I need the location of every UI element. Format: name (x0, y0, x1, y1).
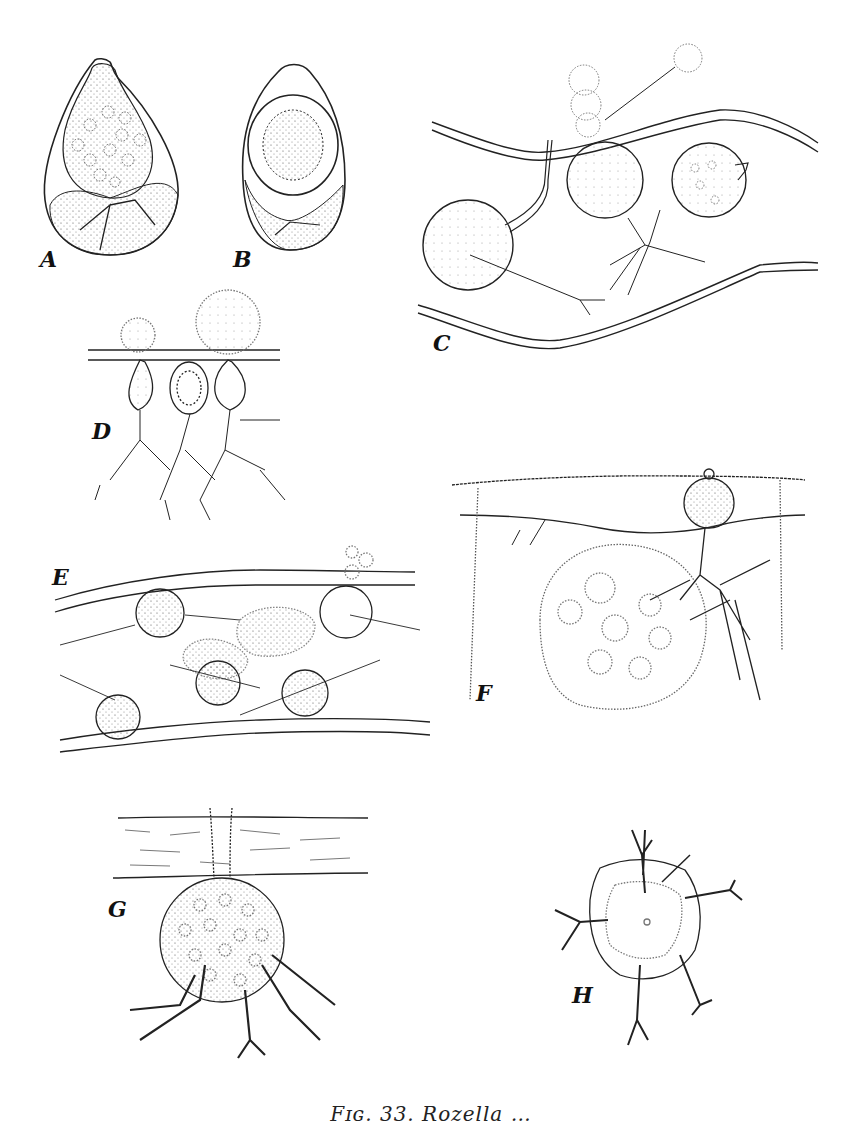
panel-label-f: F (476, 680, 492, 706)
figure-caption: Fɪɢ. 33. Rozella … (0, 1102, 862, 1125)
panel-label-b: B (233, 246, 252, 272)
panel-g-drawing (113, 808, 368, 1058)
panel-h-drawing (555, 830, 742, 1045)
panel-label-a: A (40, 246, 57, 272)
panel-f-drawing (452, 469, 805, 709)
panel-a-drawing (44, 59, 178, 255)
panel-label-e: E (52, 564, 69, 590)
panel-label-c: C (433, 330, 451, 356)
panel-c-drawing (418, 44, 818, 349)
panel-label-h: H (572, 982, 593, 1008)
panel-b-drawing (243, 65, 345, 251)
panel-label-g: G (108, 896, 127, 922)
panel-d-drawing (88, 290, 285, 520)
panel-label-d: D (92, 418, 111, 444)
panel-e-drawing (55, 546, 430, 752)
